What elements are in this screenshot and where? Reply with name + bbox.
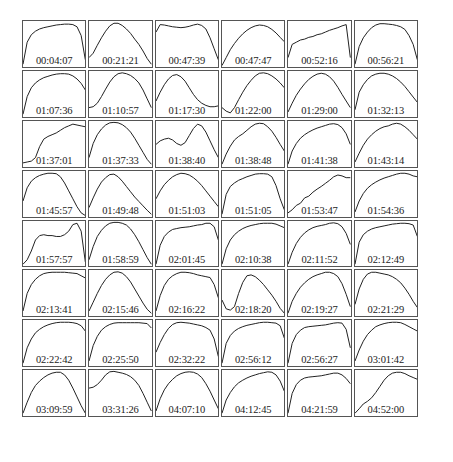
chart-panel: 02:13:41 (22, 269, 86, 317)
panel-timestamp-label: 01:51:03 (156, 205, 218, 216)
panel-timestamp-label: 02:32:22 (156, 354, 218, 365)
panel-timestamp-label: 02:22:42 (23, 354, 85, 365)
panel-timestamp-label: 01:49:48 (89, 205, 151, 216)
panel-timestamp-label: 01:32:13 (355, 105, 417, 116)
chart-panel: 01:57:57 (22, 220, 86, 268)
panel-timestamp-label: 04:52:00 (355, 404, 417, 415)
chart-panel: 01:53:47 (287, 170, 351, 218)
chart-panel: 01:41:38 (287, 120, 351, 168)
panel-timestamp-label: 00:04:07 (23, 55, 85, 66)
curve-line (156, 124, 218, 157)
panel-timestamp-label: 00:47:39 (156, 55, 218, 66)
chart-panel: 02:10:38 (221, 220, 285, 268)
chart-panel: 02:56:27 (287, 319, 351, 367)
curve-line (89, 73, 151, 108)
chart-panel: 02:11:52 (287, 220, 351, 268)
chart-panel: 02:32:22 (155, 319, 219, 367)
chart-panel: 02:12:49 (354, 220, 418, 268)
curve-line (355, 273, 417, 308)
panel-timestamp-label: 04:12:45 (222, 404, 284, 415)
panel-timestamp-label: 04:21:59 (288, 404, 350, 415)
chart-panel: 01:29:00 (287, 70, 351, 118)
panel-timestamp-label: 00:52:16 (288, 55, 350, 66)
chart-panel: 03:01:42 (354, 319, 418, 367)
panel-timestamp-label: 02:25:50 (89, 354, 151, 365)
panel-timestamp-label: 01:37:01 (23, 155, 85, 166)
panel-timestamp-label: 01:17:30 (156, 105, 218, 116)
curve-line (156, 74, 218, 106)
panel-timestamp-label: 00:47:47 (222, 55, 284, 66)
chart-panel: 04:12:45 (221, 369, 285, 417)
panel-timestamp-label: 01:45:57 (23, 205, 85, 216)
chart-panel: 01:32:13 (354, 70, 418, 118)
panel-timestamp-label: 01:38:40 (156, 155, 218, 166)
panel-timestamp-label: 01:43:14 (355, 155, 417, 166)
panel-timestamp-label: 01:29:00 (288, 105, 350, 116)
chart-panel: 01:51:05 (221, 170, 285, 218)
chart-panel: 04:07:10 (155, 369, 219, 417)
panel-timestamp-label: 02:01:45 (156, 254, 218, 265)
chart-panel: 01:45:57 (22, 170, 86, 218)
chart-panel: 04:21:59 (287, 369, 351, 417)
chart-panel: 01:43:14 (354, 120, 418, 168)
chart-panel: 04:52:00 (354, 369, 418, 417)
panel-timestamp-label: 00:56:21 (355, 55, 417, 66)
chart-panel: 00:52:16 (287, 20, 351, 68)
curve-line (156, 173, 218, 206)
panel-timestamp-label: 01:38:48 (222, 155, 284, 166)
small-multiples-grid: 00:04:0700:21:2100:47:3900:47:4700:52:16… (22, 20, 418, 417)
chart-panel: 01:17:30 (155, 70, 219, 118)
panel-timestamp-label: 01:37:33 (89, 155, 151, 166)
chart-panel: 01:38:40 (155, 120, 219, 168)
panel-timestamp-label: 01:51:05 (222, 205, 284, 216)
panel-timestamp-label: 02:13:41 (23, 304, 85, 315)
chart-panel: 02:18:20 (221, 269, 285, 317)
chart-panel: 01:49:48 (88, 170, 152, 218)
chart-panel: 02:21:29 (354, 269, 418, 317)
chart-panel: 01:37:33 (88, 120, 152, 168)
chart-panel: 00:21:21 (88, 20, 152, 68)
chart-panel: 02:22:42 (22, 319, 86, 367)
panel-timestamp-label: 02:16:22 (156, 304, 218, 315)
curve-line (156, 323, 218, 357)
panel-timestamp-label: 02:10:38 (222, 254, 284, 265)
panel-timestamp-label: 01:07:36 (23, 105, 85, 116)
chart-panel: 01:22:00 (221, 70, 285, 118)
chart-panel: 01:07:36 (22, 70, 86, 118)
panel-timestamp-label: 00:21:21 (89, 55, 151, 66)
panel-timestamp-label: 02:19:27 (288, 304, 350, 315)
panel-timestamp-label: 01:53:47 (288, 205, 350, 216)
chart-panel: 00:47:47 (221, 20, 285, 68)
chart-panel: 02:15:46 (88, 269, 152, 317)
chart-panel: 01:37:01 (22, 120, 86, 168)
panel-timestamp-label: 01:10:57 (89, 105, 151, 116)
panel-timestamp-label: 01:41:38 (288, 155, 350, 166)
panel-timestamp-label: 03:31:26 (89, 404, 151, 415)
panel-timestamp-label: 02:56:27 (288, 354, 350, 365)
chart-panel: 01:58:59 (88, 220, 152, 268)
chart-panel: 02:25:50 (88, 319, 152, 367)
panel-timestamp-label: 02:12:49 (355, 254, 417, 265)
panel-timestamp-label: 01:58:59 (89, 254, 151, 265)
panel-timestamp-label: 02:21:29 (355, 304, 417, 315)
chart-panel: 03:31:26 (88, 369, 152, 417)
chart-panel: 00:47:39 (155, 20, 219, 68)
panel-timestamp-label: 03:01:42 (355, 354, 417, 365)
panel-timestamp-label: 03:09:59 (23, 404, 85, 415)
panel-timestamp-label: 02:15:46 (89, 304, 151, 315)
chart-panel: 02:01:45 (155, 220, 219, 268)
panel-timestamp-label: 01:22:00 (222, 105, 284, 116)
chart-panel: 01:51:03 (155, 170, 219, 218)
chart-panel: 01:54:36 (354, 170, 418, 218)
chart-panel: 00:04:07 (22, 20, 86, 68)
curve-line (288, 25, 350, 58)
chart-panel: 03:09:59 (22, 369, 86, 417)
chart-panel: 01:10:57 (88, 70, 152, 118)
panel-timestamp-label: 01:57:57 (23, 254, 85, 265)
chart-panel: 01:38:48 (221, 120, 285, 168)
panel-timestamp-label: 02:56:12 (222, 354, 284, 365)
panel-timestamp-label: 02:18:20 (222, 304, 284, 315)
panel-timestamp-label: 02:11:52 (288, 254, 350, 265)
chart-panel: 00:56:21 (354, 20, 418, 68)
chart-panel: 02:56:12 (221, 319, 285, 367)
